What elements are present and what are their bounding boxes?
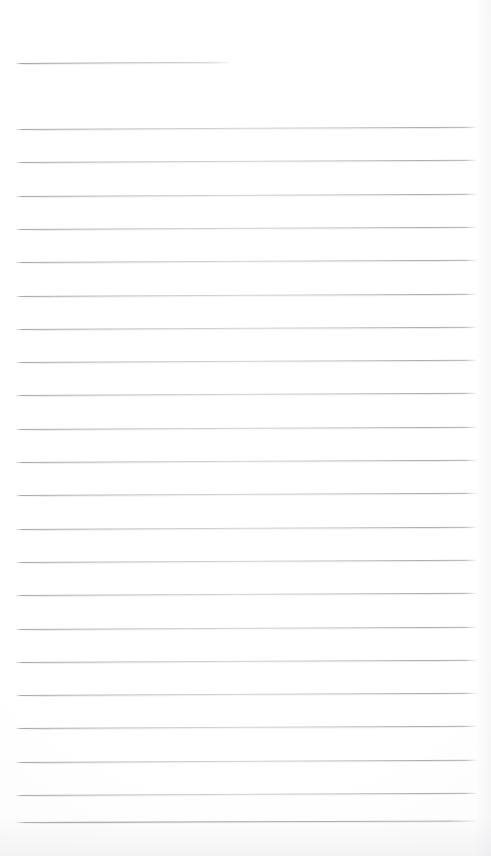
ruled-line-4 (15, 227, 478, 230)
ruled-line-11 (15, 460, 478, 463)
scanned-page (0, 0, 491, 856)
ruled-line-21 (15, 793, 478, 796)
ruled-line-15 (15, 593, 478, 596)
ruled-line-19 (15, 726, 478, 729)
ruled-line-18 (15, 693, 478, 696)
ruled-line-3 (15, 193, 478, 196)
ruled-line-1 (15, 127, 478, 130)
ruled-line-2 (15, 160, 478, 163)
ruled-line-10 (15, 427, 478, 430)
ruled-line-17 (15, 660, 478, 663)
ruled-line-12 (15, 493, 478, 496)
ruled-line-7 (15, 327, 478, 330)
ruled-line-9 (15, 393, 478, 396)
ruled-line-8 (15, 360, 478, 363)
ruled-line-6 (15, 293, 478, 296)
ruled-line-22 (15, 821, 478, 823)
ruled-line-16 (15, 626, 478, 629)
ruled-line-20 (15, 760, 478, 763)
ruled-line-14 (15, 560, 478, 563)
ruled-line-5 (15, 260, 478, 263)
title-rule (15, 62, 231, 64)
ruled-line-13 (15, 526, 478, 529)
